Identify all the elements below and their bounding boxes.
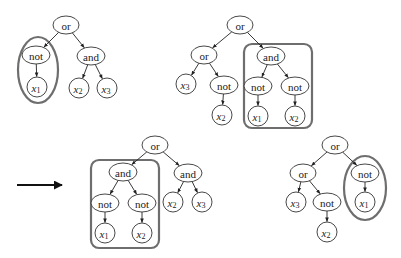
tree-2-edge-b-e xyxy=(209,63,218,76)
tree-1-node-x2-e: x2 xyxy=(69,78,89,98)
node-label: not xyxy=(29,50,43,62)
tree-3-edge-b-e xyxy=(128,180,136,194)
node-label: not xyxy=(320,197,334,209)
tree-crossover-diagram: ornotandx1x2x3ororandx3notx2notnotx1x2or… xyxy=(0,0,401,258)
tree-3-node-and-c: and xyxy=(174,164,202,182)
tree-3-node-x3-i: x3 xyxy=(192,192,212,212)
tree-4-edge-b-e xyxy=(309,181,320,194)
tree-2-node-x1-i: x1 xyxy=(248,106,268,126)
node-label: or xyxy=(330,140,340,152)
node-label: not xyxy=(217,80,231,92)
tree-2-node-or-b: or xyxy=(191,46,217,64)
tree-1-edge-c-f xyxy=(95,65,102,79)
tree-3-edge-a-c xyxy=(163,152,179,166)
tree-4-node-x3-d: x3 xyxy=(286,192,306,212)
tree-4-edge-a-b xyxy=(311,152,326,166)
tree-3-node-x1-f: x1 xyxy=(95,223,115,243)
node-label: not xyxy=(251,81,265,93)
node-label: and xyxy=(83,51,99,63)
tree-2-node-x3-d: x3 xyxy=(176,74,196,94)
tree-2-node-not-g: not xyxy=(244,77,272,95)
tree-3-node-and-b: and xyxy=(109,163,137,181)
node-label: or xyxy=(61,20,71,32)
node-label: and xyxy=(263,51,279,63)
tree-2-node-and-c: and xyxy=(257,47,285,65)
tree-1-node-not-b: not xyxy=(22,46,50,64)
tree-1-node-x3-f: x3 xyxy=(97,78,117,98)
nodes-layer: ornotandx1x2x3ororandx3notx2notnotx1x2or… xyxy=(22,16,379,243)
tree-2-node-not-e: not xyxy=(210,76,238,94)
tree-2-edge-a-b xyxy=(213,32,232,48)
node-label: not xyxy=(358,168,372,180)
tree-2-edge-b-d xyxy=(192,63,199,75)
tree-2-edge-e-f xyxy=(223,94,224,105)
tree-4-node-x2-f: x2 xyxy=(317,222,337,242)
tree-1-node-x1-d: x1 xyxy=(27,77,47,97)
tree-3-node-x2-g: x2 xyxy=(132,223,152,243)
node-label: and xyxy=(115,167,131,179)
tree-2-node-x2-j: x2 xyxy=(285,106,305,126)
tree-3-edge-b-d xyxy=(110,180,118,194)
tree-1-node-and-c: and xyxy=(77,47,105,65)
node-label: or xyxy=(150,140,160,152)
tree-3-node-x2-h: x2 xyxy=(163,192,183,212)
tree-3-edge-c-i xyxy=(192,182,197,193)
tree-3-edge-c-h xyxy=(178,182,184,193)
tree-4-node-not-e: not xyxy=(313,193,341,211)
tree-3-node-or-a: or xyxy=(142,136,168,154)
tree-4-edge-b-d xyxy=(298,182,300,192)
node-label: not xyxy=(98,198,112,210)
node-label: or xyxy=(298,168,308,180)
tree-4-node-or-a: or xyxy=(322,136,348,154)
tree-2-node-x2-f: x2 xyxy=(212,105,232,125)
node-label: and xyxy=(180,168,196,180)
tree-3-edge-a-b xyxy=(132,152,147,165)
tree-4-node-or-b: or xyxy=(290,164,316,182)
tree-2-node-not-h: not xyxy=(281,77,309,95)
tree-4-node-not-c: not xyxy=(351,164,379,182)
node-label: not xyxy=(288,81,302,93)
node-label: or xyxy=(199,50,209,62)
tree-3-node-not-e: not xyxy=(128,194,156,212)
node-label: not xyxy=(135,198,149,210)
tree-3-node-not-d: not xyxy=(91,194,119,212)
tree-4-node-x1-g: x1 xyxy=(355,192,375,212)
tree-2-edge-c-g xyxy=(262,65,267,77)
node-label: or xyxy=(235,20,245,32)
tree-1-edge-a-c xyxy=(72,33,84,48)
tree-2-edge-a-c xyxy=(247,32,263,48)
tree-1-node-or-a: or xyxy=(53,16,79,34)
tree-2-edge-c-h xyxy=(277,64,288,78)
tree-2-node-or-a: or xyxy=(227,16,253,34)
tree-1-edge-c-e xyxy=(83,65,88,78)
